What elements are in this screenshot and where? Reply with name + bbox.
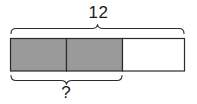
bar-segments xyxy=(11,39,185,72)
total-brace xyxy=(11,25,184,34)
bar-segment-1 xyxy=(11,39,67,72)
tape-diagram: 12 ? xyxy=(0,0,197,104)
total-value-label: 12 xyxy=(0,4,197,21)
bar-segment-2 xyxy=(67,39,123,72)
bar-segment-3 xyxy=(123,39,185,72)
unknown-value-label: ? xyxy=(0,84,132,101)
